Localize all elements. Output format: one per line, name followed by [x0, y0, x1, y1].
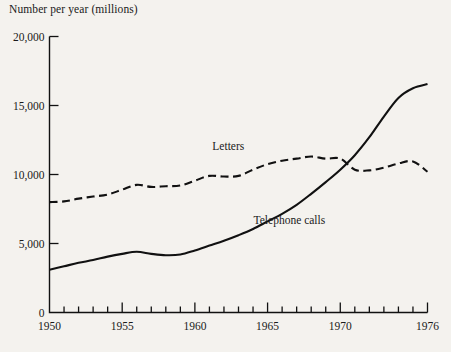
y-axis-tick-label: 10,000 [13, 169, 45, 181]
series-line-letters [50, 157, 428, 203]
x-axis-tick-label: 1976 [416, 320, 439, 332]
x-axis-tick-label: 1960 [183, 320, 206, 332]
axis-lines [50, 37, 428, 313]
y-axis-tick-label: 15,000 [13, 100, 45, 112]
chart-figure: Number per year (millions) 05,00010,0001… [0, 0, 451, 352]
x-axis-tick-label: 1965 [256, 320, 279, 332]
y-axis-tick-label: 20,000 [13, 31, 45, 43]
x-axis-tick-label: 1970 [329, 320, 352, 332]
x-axis-tick-label: 1950 [38, 320, 61, 332]
series-label-letters: Letters [212, 140, 244, 152]
chart-plot-area [0, 0, 451, 352]
series-label-telephone-calls: Telephone calls [254, 214, 326, 226]
x-axis-tick-label: 1955 [111, 320, 134, 332]
y-axis-tick-label: 0 [39, 307, 45, 319]
y-axis-tick-label: 5,000 [19, 238, 45, 250]
